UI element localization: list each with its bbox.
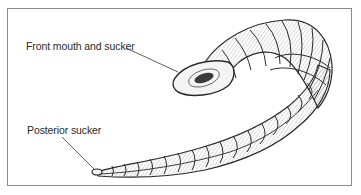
leech-illustration xyxy=(0,0,361,195)
front-mouth-label: Front mouth and sucker xyxy=(26,40,135,52)
posterior-sucker xyxy=(92,169,102,175)
posterior-sucker-label: Posterior sucker xyxy=(27,124,101,136)
posterior-leader-line xyxy=(62,137,95,170)
